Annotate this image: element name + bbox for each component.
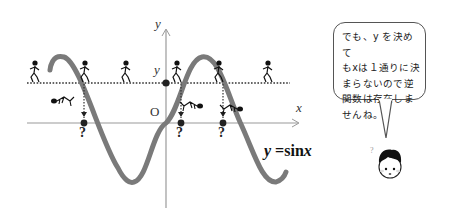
- x-axis-label: x: [296, 100, 302, 116]
- thought-question-mark: ?: [370, 146, 374, 155]
- level-y-label: y: [154, 62, 160, 78]
- speech-bubble: でも、y を決めて もxは１通りに決 まらないので逆 関数は存在しま せんね。: [333, 22, 426, 100]
- speech-bubble-tail: [378, 98, 394, 140]
- y-level-point: [162, 79, 169, 86]
- origin-label: O: [150, 104, 159, 120]
- boy-character: [379, 150, 401, 178]
- equation-equals: =: [275, 142, 284, 159]
- question-mark-1: ?: [79, 125, 86, 141]
- equation-lhs: y: [264, 142, 271, 159]
- question-mark-3: ?: [218, 125, 225, 141]
- falling-figures: [51, 97, 243, 114]
- equation-var: x: [304, 142, 312, 159]
- equation-func: sin: [284, 142, 304, 159]
- equation-label: y =sinx: [264, 142, 312, 160]
- runner-figures: [30, 60, 272, 82]
- question-mark-2: ?: [176, 125, 183, 141]
- y-axis-label: y: [155, 16, 161, 32]
